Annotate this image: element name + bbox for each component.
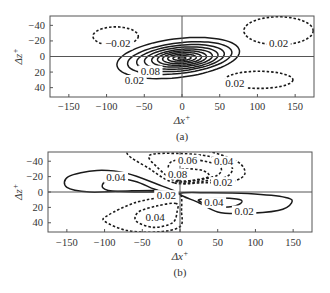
- x-axis-title: Δx+: [173, 113, 191, 126]
- x-tick-label: 50: [214, 101, 225, 112]
- x-tick-label: 0: [179, 101, 184, 112]
- y-tick-label: 20: [35, 67, 46, 78]
- x-tick-label: 150: [287, 101, 303, 112]
- y-tick-label: −20: [27, 171, 43, 182]
- contour-figure: −150−100−50050100150−40−2002040Δx+Δz+(a)…: [0, 0, 330, 293]
- contour-label: 0.02: [225, 77, 244, 89]
- contour-label: −0.02: [105, 37, 130, 49]
- panel-a-plot: −150−100−50050100150−40−2002040Δx+Δz+(a)…: [11, 16, 314, 143]
- y-tick-label: −40: [29, 20, 45, 31]
- contour-label: 0.02: [125, 74, 144, 86]
- contour-label: 0.04: [214, 155, 234, 167]
- contour-label: 0.02: [234, 205, 253, 217]
- x-tick-label: 100: [250, 101, 266, 112]
- x-tick-label: −50: [134, 237, 150, 248]
- x-tick-label: −150: [56, 237, 78, 248]
- y-tick-label: 0: [40, 51, 45, 62]
- contour-label: 0.04: [204, 196, 224, 208]
- panel-caption: (a): [176, 130, 189, 143]
- x-axis-title: Δx+: [171, 249, 189, 262]
- x-tick-label: −150: [58, 101, 80, 112]
- y-tick-label: 40: [33, 217, 44, 228]
- y-tick-label: −20: [29, 35, 45, 46]
- contour-label: 0.02: [269, 37, 288, 49]
- x-tick-label: 150: [285, 237, 301, 248]
- x-tick-label: −50: [136, 101, 152, 112]
- contour-label: 0.06: [178, 154, 198, 166]
- x-tick-label: 100: [248, 237, 264, 248]
- y-axis-title: Δz+: [11, 184, 24, 201]
- y-tick-label: 20: [33, 202, 44, 213]
- y-tick-label: −40: [27, 156, 43, 167]
- x-tick-label: −100: [96, 101, 118, 112]
- panel-caption: (b): [174, 266, 187, 279]
- y-axis-title: Δz+: [11, 48, 24, 65]
- contour-label: 0.04: [145, 211, 165, 223]
- contour-label: 0.02: [157, 189, 176, 201]
- panel-b-plot: −150−100−50050100150−40−2002040Δx+Δz+(b)…: [11, 146, 312, 279]
- contour-label: 0.08: [168, 168, 188, 180]
- x-tick-label: 0: [177, 237, 182, 248]
- contour-label: 0.04: [106, 171, 126, 183]
- y-tick-label: 40: [35, 82, 46, 93]
- x-tick-label: 50: [212, 237, 223, 248]
- contour-label: 0.02: [213, 176, 232, 188]
- x-tick-label: −100: [94, 237, 116, 248]
- y-tick-label: 0: [38, 187, 43, 198]
